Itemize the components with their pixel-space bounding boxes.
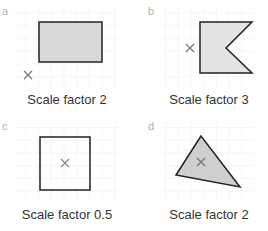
panel-letter-d: d bbox=[148, 120, 154, 132]
panel-letter-a: a bbox=[2, 5, 8, 17]
caption-c: Scale factor 0.5 bbox=[0, 207, 134, 222]
panel-letter-c: c bbox=[2, 120, 8, 132]
caption-a: Scale factor 2 bbox=[0, 92, 134, 107]
panel-letter-b: b bbox=[148, 5, 154, 17]
caption-b: Scale factor 3 bbox=[142, 92, 268, 107]
shape-rectangle-a bbox=[39, 22, 102, 62]
diagram-canvas bbox=[0, 0, 268, 231]
caption-d: Scale factor 2 bbox=[142, 207, 268, 222]
